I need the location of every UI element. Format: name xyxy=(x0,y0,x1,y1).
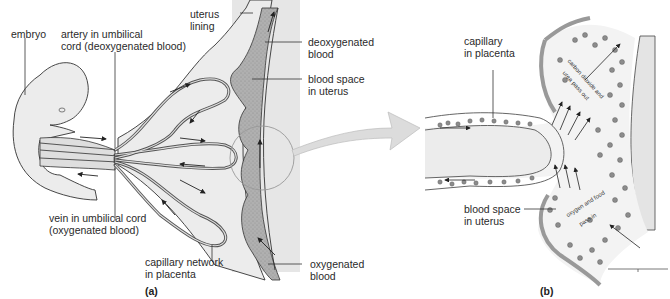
magnify-arrow xyxy=(292,112,420,156)
label-b-blood-space-line2: in uterus xyxy=(464,215,504,228)
label-artery-line1: artery in umbilical xyxy=(61,28,143,41)
label-uterus-line1: uterus xyxy=(190,8,219,21)
umbilical-cord xyxy=(40,138,115,171)
label-artery-line2: cord (deoxygenated blood) xyxy=(61,40,186,53)
label-vein-line1: vein in umbilical cord xyxy=(49,212,146,225)
label-capillary-network-line2: in placenta xyxy=(145,268,196,281)
label-oxygenated-line1: oxygenated xyxy=(310,258,364,271)
label-blood-space-line1: blood space xyxy=(308,73,365,86)
scale-bar xyxy=(608,269,668,272)
panel-label-a: (a) xyxy=(145,285,158,297)
panel-label-b: (b) xyxy=(540,285,553,297)
panel-b xyxy=(425,18,668,285)
label-oxygenated-line2: blood xyxy=(310,270,336,283)
label-deoxygenated-line2: blood xyxy=(308,48,334,61)
label-embryo: embryo xyxy=(11,28,46,41)
label-capillary-line2: in placenta xyxy=(464,47,515,60)
label-capillary-line1: capillary xyxy=(464,35,503,48)
label-blood-space-line2: in uterus xyxy=(308,85,348,98)
label-uterus-line2: lining xyxy=(190,20,215,33)
label-b-blood-space-line1: blood space xyxy=(464,203,521,216)
label-vein-line2: (oxygenated blood) xyxy=(49,224,139,237)
label-capillary-network-line1: capillary network xyxy=(145,256,223,269)
embryo xyxy=(13,63,97,200)
label-deoxygenated-line1: deoxygenated xyxy=(308,36,374,49)
